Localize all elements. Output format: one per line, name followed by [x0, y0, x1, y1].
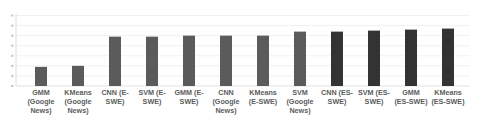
- x-axis-label-line: SVM (ES-: [354, 88, 394, 97]
- x-axis-label: CNN (ES-SWE): [317, 88, 357, 106]
- x-axis-label-line: CNN (E-: [95, 88, 135, 97]
- y-axis-ticks: [11, 15, 14, 88]
- y-tick-label: [11, 15, 14, 17]
- x-axis-label: CNN (E-SWE): [95, 88, 135, 106]
- x-axis-label: GMM(ES-SWE): [391, 88, 431, 106]
- x-axis-label: SVM(GoogleNews): [280, 88, 320, 115]
- x-axis-label-line: (Google: [58, 97, 98, 106]
- y-tick-label: [11, 45, 14, 47]
- bar: [72, 66, 84, 86]
- x-axis-label-line: SVM: [280, 88, 320, 97]
- bar: [183, 36, 195, 86]
- x-axis-label: KMeans(ES-SWE): [428, 88, 468, 106]
- bar: [442, 29, 454, 86]
- x-axis-label-line: (Google: [206, 97, 246, 106]
- bar: [257, 36, 269, 86]
- y-tick-label: [11, 55, 14, 57]
- bar: [220, 36, 232, 86]
- x-axis-label-line: (Google: [280, 97, 320, 106]
- x-axis-label-line: (E-SWE): [243, 97, 283, 106]
- x-axis-label: CNN(GoogleNews): [206, 88, 246, 115]
- bar: [368, 31, 380, 86]
- x-axis-label-line: (ES-SWE): [428, 97, 468, 106]
- bar: [109, 37, 121, 86]
- x-axis-label-line: (ES-SWE): [391, 97, 431, 106]
- x-axis-label-line: News): [280, 106, 320, 115]
- y-tick-label: [11, 85, 14, 87]
- x-axis-label-line: SWE): [95, 97, 135, 106]
- bar: [405, 30, 417, 86]
- bar: [294, 32, 306, 86]
- x-axis-label-line: News): [206, 106, 246, 115]
- y-tick-label: [11, 75, 14, 77]
- x-axis-label-line: GMM (E-: [169, 88, 209, 97]
- y-tick-label: [11, 25, 14, 27]
- x-axis-label-line: SVM (E-: [132, 88, 172, 97]
- x-axis-label: SVM (ES-SWE): [354, 88, 394, 106]
- x-axis-label: KMeans(GoogleNews): [58, 88, 98, 115]
- x-axis-label: KMeans(E-SWE): [243, 88, 283, 106]
- x-axis-label-line: SWE): [354, 97, 394, 106]
- bar: [35, 67, 47, 86]
- x-axis-label-line: KMeans: [58, 88, 98, 97]
- x-axis-label-line: News): [21, 106, 61, 115]
- x-axis-label-line: SWE): [317, 97, 357, 106]
- x-axis-label-line: CNN: [206, 88, 246, 97]
- bar: [331, 32, 343, 86]
- y-tick-label: [11, 35, 14, 37]
- y-tick-label: [11, 65, 14, 67]
- x-axis-label-line: SWE): [132, 97, 172, 106]
- x-axis-label-line: GMM: [21, 88, 61, 97]
- x-axis-label-line: (Google: [21, 97, 61, 106]
- x-axis-label: GMM (E-SWE): [169, 88, 209, 106]
- x-axis-label: GMM(GoogleNews): [21, 88, 61, 115]
- bar: [146, 37, 158, 86]
- bars: [35, 29, 454, 86]
- x-axis-label-line: KMeans: [428, 88, 468, 97]
- x-axis-label-line: CNN (ES-: [317, 88, 357, 97]
- x-axis-label: SVM (E-SWE): [132, 88, 172, 106]
- gridlines: [16, 16, 470, 87]
- x-axis-label-line: SWE): [169, 97, 209, 106]
- x-axis-label-line: GMM: [391, 88, 431, 97]
- x-axis-label-line: News): [58, 106, 98, 115]
- x-axis-label-line: KMeans: [243, 88, 283, 97]
